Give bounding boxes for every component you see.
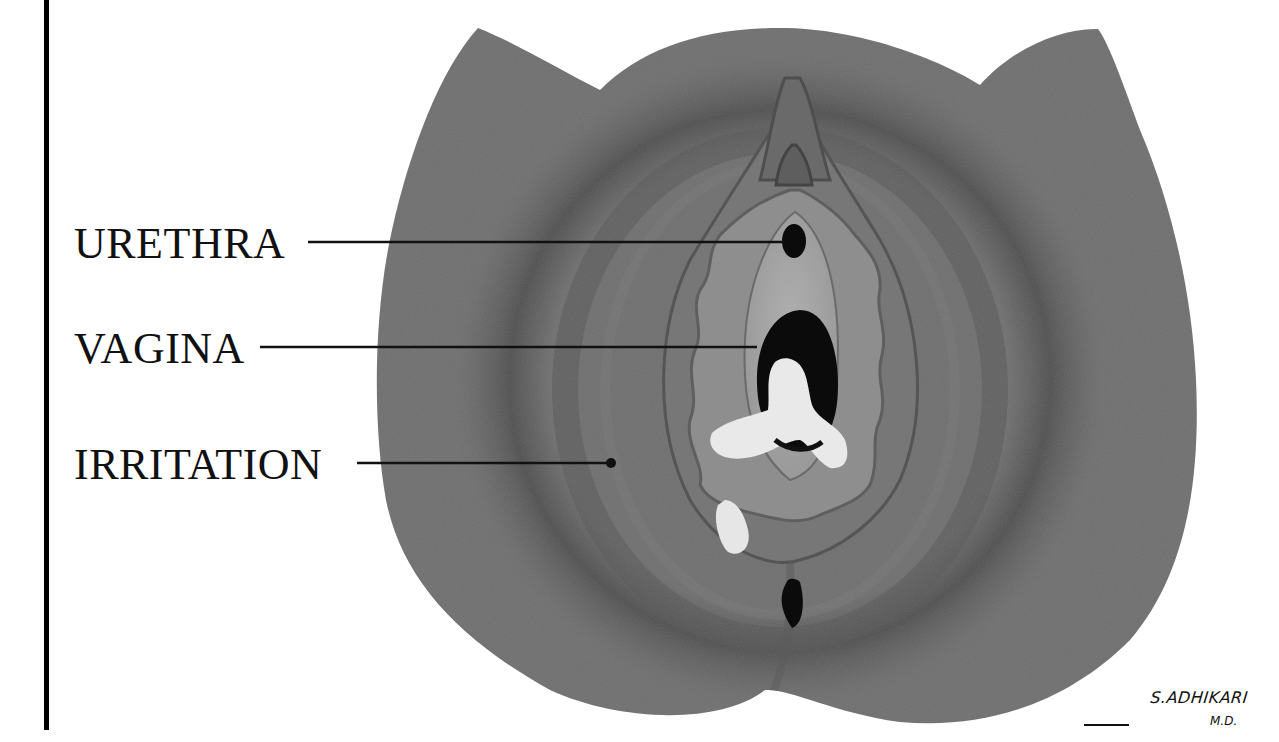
label-urethra: URETHRA: [74, 222, 285, 266]
artist-signature-name: S.ADHIKARI: [1149, 688, 1249, 707]
label-irritation: IRRITATION: [74, 443, 322, 487]
signature-dash: [1084, 724, 1129, 726]
irritation-marker-dot: [606, 458, 616, 468]
urethral-opening: [782, 224, 806, 258]
label-vagina: VAGINA: [74, 327, 245, 371]
artist-signature-credential: M.D.: [1210, 714, 1237, 728]
